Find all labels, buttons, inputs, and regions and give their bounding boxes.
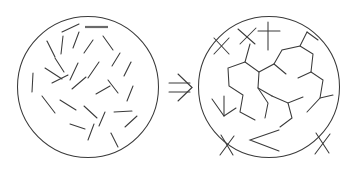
right-chain-14 (307, 32, 318, 40)
left-segment-7 (52, 75, 68, 83)
left-segment-17 (124, 62, 131, 76)
right-chain-12 (272, 96, 303, 103)
right-chain-23 (320, 95, 333, 98)
left-segment-15 (112, 53, 120, 66)
right-chain-8 (259, 64, 286, 74)
left-segment-13 (103, 36, 113, 50)
left-segment-0 (62, 24, 79, 32)
diagram-canvas (0, 0, 354, 175)
left-segment-10 (72, 77, 86, 89)
right-chain-3 (240, 28, 256, 44)
left-segment-14 (88, 62, 99, 78)
left-segment-3 (73, 32, 79, 48)
left-segment-1 (47, 41, 55, 57)
transformation-arrow (169, 74, 192, 101)
right-chain-15 (298, 72, 311, 78)
left-segment-4 (55, 58, 64, 72)
left-segment-2 (61, 36, 63, 54)
left-segment-23 (114, 111, 132, 112)
right-chain-9 (274, 32, 307, 64)
left-segment-18 (127, 86, 133, 101)
left-segment-11 (70, 63, 78, 80)
left-segment-12 (84, 40, 93, 53)
figure-root (0, 0, 354, 175)
left-segment-19 (96, 86, 110, 94)
right-chain-20 (250, 130, 279, 151)
right-chain-7 (228, 62, 255, 120)
arrow-head-lower (178, 88, 192, 102)
left-segment-26 (125, 116, 137, 127)
left-circle-boundary (18, 17, 159, 158)
arrow-head-upper (178, 74, 192, 88)
left-line-segments (32, 24, 137, 147)
right-connected-segments (212, 22, 333, 155)
left-segment-21 (70, 124, 85, 129)
left-segment-6 (45, 68, 62, 79)
left-segment-8 (42, 96, 55, 113)
left-segment-5 (32, 73, 33, 92)
right-chain-10 (300, 46, 323, 112)
left-panel (18, 17, 159, 158)
left-segment-24 (88, 124, 94, 140)
left-segment-22 (99, 112, 105, 126)
left-segment-9 (60, 100, 76, 110)
left-segment-20 (84, 106, 97, 118)
left-segment-25 (111, 133, 118, 147)
right-panel (199, 17, 340, 158)
right-chain-13 (280, 103, 292, 127)
